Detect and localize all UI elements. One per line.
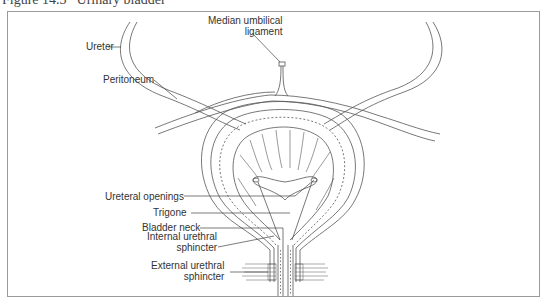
urethra <box>278 245 293 296</box>
ureter-right <box>324 22 442 130</box>
label-line-1: Median umbilical <box>208 15 282 26</box>
mucosal-folds <box>238 130 334 210</box>
label-line-1: Internal urethral <box>147 231 217 242</box>
label-line-1: External urethral <box>151 260 224 271</box>
label-ureter: Ureter <box>86 41 114 52</box>
label-internal-urethral-sphincter: Internal urethral sphincter <box>147 231 217 253</box>
label-line-2: ligament <box>208 26 282 37</box>
trigone <box>253 177 317 240</box>
label-trigone: Trigone <box>153 207 187 218</box>
label-line-2: sphincter <box>147 242 217 253</box>
bladder-illustration <box>0 0 543 303</box>
peritoneum <box>155 92 440 141</box>
label-line-2: sphincter <box>151 271 224 282</box>
label-ureteral-openings: Ureteral openings <box>105 191 184 202</box>
median-umbilical-ligament <box>275 62 288 96</box>
label-external-urethral-sphincter: External urethral sphincter <box>151 260 224 282</box>
label-median-umbilical-ligament: Median umbilical ligament <box>208 15 282 37</box>
label-peritoneum: Peritoneum <box>103 74 154 85</box>
